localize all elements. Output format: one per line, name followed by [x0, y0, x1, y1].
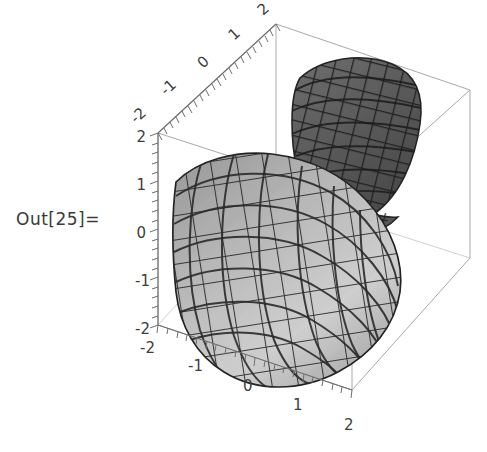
tick-label-bottom-2: 0 — [243, 377, 253, 395]
axis-left-vertical — [150, 133, 158, 328]
axis-top-rear — [158, 24, 280, 140]
notebook-output-cell: Out[25]= — [0, 0, 487, 452]
tick-label-left-2: 0 — [136, 224, 146, 242]
tick-label-bottom-3: 1 — [293, 396, 303, 414]
tick-label-top-2: 0 — [194, 52, 213, 72]
tick-label-top-3: 1 — [225, 24, 244, 44]
tick-label-bottom-4: 2 — [344, 416, 354, 434]
tick-label-top-1: -1 — [157, 76, 180, 99]
tick-label-bottom-0: -2 — [140, 339, 155, 357]
tick-label-bottom-1: -1 — [188, 357, 203, 375]
tick-labels-top-rear: -2 -1 0 1 2 — [127, 0, 273, 127]
tick-label-left-1: 1 — [136, 176, 146, 194]
tick-label-left-3: -1 — [135, 272, 150, 290]
tick-label-top-4: 2 — [254, 0, 273, 19]
tick-label-left-0: 2 — [136, 128, 146, 146]
tick-label-top-0: -2 — [127, 104, 150, 127]
tick-labels-left-vertical: 2 1 0 -1 -2 — [135, 128, 150, 338]
tick-label-left-4: -2 — [135, 320, 150, 338]
graphics3d-surface-plot[interactable]: -2 -1 0 1 2 2 1 0 -1 -2 -2 -1 0 1 2 — [0, 0, 487, 452]
